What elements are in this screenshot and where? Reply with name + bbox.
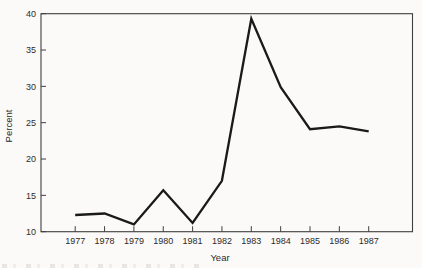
x-tick-label: 1986 bbox=[329, 236, 349, 246]
line-chart-figure: 1015202530354019771978197919801981198219… bbox=[0, 0, 422, 268]
x-tick-label: 1980 bbox=[153, 236, 173, 246]
y-tick-label: 35 bbox=[26, 45, 36, 55]
x-tick-label: 1983 bbox=[241, 236, 261, 246]
x-tick-label: 1982 bbox=[212, 236, 232, 246]
y-tick-label: 25 bbox=[26, 118, 36, 128]
x-tick-label: 1979 bbox=[124, 236, 144, 246]
x-tick-label: 1981 bbox=[183, 236, 203, 246]
x-tick-label: 1978 bbox=[95, 236, 115, 246]
scanned-page: 1015202530354019771978197919801981198219… bbox=[0, 0, 422, 268]
x-tick-label: 1984 bbox=[271, 236, 291, 246]
x-tick-label: 1985 bbox=[300, 236, 320, 246]
y-axis-title: Percent bbox=[3, 109, 14, 142]
x-tick-label: 1987 bbox=[359, 236, 379, 246]
x-axis-title: Year bbox=[210, 252, 229, 263]
line-chart-svg: 1015202530354019771978197919801981198219… bbox=[0, 0, 422, 268]
x-tick-label: 1977 bbox=[65, 236, 85, 246]
y-tick-label: 30 bbox=[26, 82, 36, 92]
y-tick-label: 20 bbox=[26, 154, 36, 164]
cut-off-caption-artifact bbox=[2, 264, 202, 268]
y-tick-label: 10 bbox=[26, 227, 36, 237]
plot-layer: 1015202530354019771978197919801981198219… bbox=[26, 9, 413, 246]
data-line bbox=[75, 19, 369, 225]
axes-box bbox=[41, 14, 413, 232]
y-tick-label: 15 bbox=[26, 191, 36, 201]
y-tick-label: 40 bbox=[26, 9, 36, 19]
